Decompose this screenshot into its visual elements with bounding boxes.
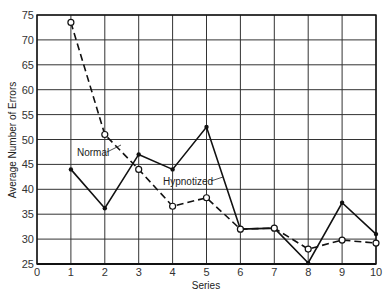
data-point-hypnotized [68, 19, 74, 25]
x-axis-label: Series [192, 280, 220, 291]
x-tick-label: 4 [170, 266, 176, 278]
data-point-normal [170, 167, 174, 171]
data-point-hypnotized [271, 225, 277, 231]
annotation-hypnotized: Hypnotized [163, 176, 223, 187]
x-tick-label: 10 [370, 266, 382, 278]
x-tick-label: 3 [136, 266, 142, 278]
x-tick-label: 9 [339, 266, 345, 278]
data-point-normal [204, 125, 208, 129]
y-tick-label: 65 [22, 59, 34, 71]
y-tick-label: 60 [22, 84, 34, 96]
y-tick-label: 25 [22, 258, 34, 270]
data-point-hypnotized [373, 240, 379, 246]
data-point-hypnotized [305, 246, 311, 252]
series-line-hypnotized [71, 22, 376, 249]
y-tick-label: 45 [22, 158, 34, 170]
y-tick-label: 40 [22, 183, 34, 195]
data-point-normal [69, 167, 73, 171]
x-tick-label: 2 [102, 266, 108, 278]
y-tick-label: 55 [22, 109, 34, 121]
data-point-hypnotized [102, 132, 108, 138]
normal-annotation-label: Normal [77, 147, 109, 158]
data-point-normal [103, 206, 107, 210]
y-tick-label: 35 [22, 208, 34, 220]
grid-lines [37, 15, 376, 264]
data-point-normal [306, 261, 310, 265]
y-axis-label: Average Number of Errors [7, 82, 18, 199]
data-point-hypnotized [339, 237, 345, 243]
x-axis-ticks: 012345678910 [34, 266, 382, 278]
annotation-normal: Normal [77, 145, 121, 158]
y-tick-label: 70 [22, 34, 34, 46]
x-tick-label: 0 [34, 266, 40, 278]
x-tick-label: 8 [305, 266, 311, 278]
y-axis-ticks: 2530354045505560657075 [22, 9, 34, 270]
data-point-normal [374, 232, 378, 236]
x-tick-label: 7 [271, 266, 277, 278]
data-point-normal [137, 152, 141, 156]
data-series [68, 19, 379, 265]
hypnotized-annotation-label: Hypnotized [163, 176, 213, 187]
data-point-hypnotized [170, 203, 176, 209]
x-tick-label: 1 [68, 266, 74, 278]
data-point-hypnotized [237, 226, 243, 232]
line-chart: 012345678910 2530354045505560657075 Seri… [0, 0, 388, 297]
y-tick-label: 75 [22, 9, 34, 21]
y-tick-label: 50 [22, 134, 34, 146]
x-tick-label: 6 [237, 266, 243, 278]
x-tick-label: 5 [203, 266, 209, 278]
data-point-normal [340, 201, 344, 205]
data-point-hypnotized [136, 166, 142, 172]
data-point-hypnotized [204, 195, 210, 201]
y-tick-label: 30 [22, 233, 34, 245]
